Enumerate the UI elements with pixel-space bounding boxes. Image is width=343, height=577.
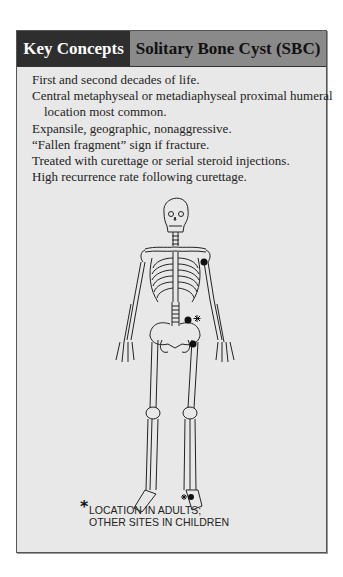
right-hand [216,342,234,362]
caption-line: OTHER SITES IN CHILDREN [89,516,229,528]
figure-caption: LOCATION IN ADULTS; OTHER SITES IN CHILD… [89,504,229,528]
skeleton-diagram [0,0,343,577]
marker-proximal-humerus [201,259,208,266]
left-hand [116,342,134,362]
ribcage [150,252,200,302]
marker-ilium [185,317,192,324]
marker-calcaneus [188,494,194,500]
skull-icon [164,198,188,232]
asterisk-icon: * [80,497,88,516]
marker-femoral-neck [190,341,197,348]
caption-line: LOCATION IN ADULTS; [89,504,229,516]
